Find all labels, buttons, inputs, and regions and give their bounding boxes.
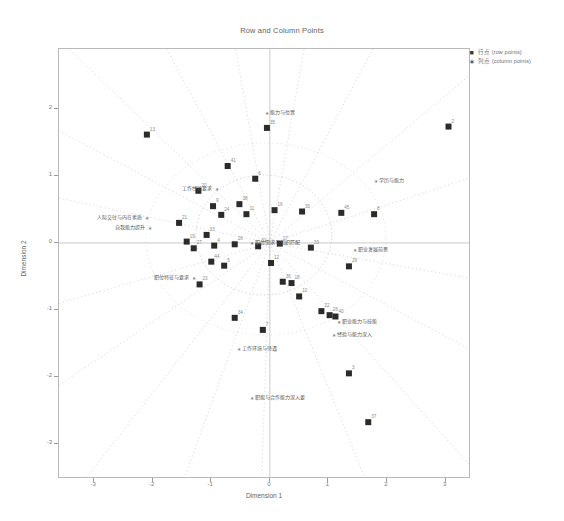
row-point-label: 33	[210, 227, 215, 232]
row-point-label: 44	[214, 254, 219, 259]
x-tick-label: -2	[142, 481, 162, 487]
y-tick-label: -3	[36, 439, 52, 445]
row-point-label: 40	[338, 309, 343, 314]
row-point-label: 27	[197, 240, 202, 245]
row-point-label: 23	[203, 276, 208, 281]
svg-text:∗: ∗	[250, 395, 254, 401]
row-point-label: 26	[238, 236, 243, 241]
legend-label-column-points: 列点 (column points)	[478, 58, 531, 65]
row-point-label: 11	[249, 206, 254, 211]
row-point-label: 12	[274, 255, 279, 260]
plot-area: ∗∗∗∗∗∗∗∗∗∗∗∗	[58, 48, 470, 478]
y-axis-label: Dimension 2	[20, 219, 27, 299]
svg-text:∗: ∗	[332, 332, 336, 338]
row-point-label: 41	[231, 158, 236, 163]
y-tick-mark	[54, 376, 58, 377]
row-point-label: 4	[217, 238, 220, 243]
column-point-label: 职位特征与要求	[154, 274, 189, 280]
svg-text:∗: ∗	[215, 186, 219, 192]
svg-text:∗: ∗	[353, 247, 357, 253]
row-point-label: 10	[302, 288, 307, 293]
row-point-label: 37	[371, 414, 376, 419]
scatter-svg: ∗∗∗∗∗∗∗∗∗∗∗∗	[59, 49, 469, 477]
column-point-label: 职位需求与组织匹配	[255, 239, 300, 245]
row-point-label: 18	[295, 275, 300, 280]
svg-text:∗: ∗	[237, 346, 241, 352]
square-marker-icon: ■	[468, 49, 475, 56]
x-tick-label: 1	[317, 481, 337, 487]
svg-text:∗: ∗	[337, 319, 341, 325]
svg-text:∗: ∗	[250, 240, 254, 246]
svg-text:∗: ∗	[148, 225, 152, 231]
x-tick-label: 2	[376, 481, 396, 487]
x-tick-label: 0	[259, 481, 279, 487]
column-point-label: 工作经验要求	[182, 185, 212, 191]
chart-title: Row and Column Points	[0, 26, 564, 35]
column-point-label: 经验与能力深入	[337, 331, 372, 337]
row-point-label: 38	[242, 196, 247, 201]
row-point-label: 2	[452, 119, 455, 124]
column-point-label: 职业发展前景	[358, 246, 388, 252]
row-point-label: 39	[314, 240, 319, 245]
y-tick-label: 0	[36, 238, 52, 244]
y-tick-label: -2	[36, 372, 52, 378]
row-point-label: 8	[377, 206, 380, 211]
x-axis-label: Dimension 1	[58, 492, 470, 499]
svg-text:∗: ∗	[374, 178, 378, 184]
row-point-label: 16	[278, 202, 283, 207]
y-tick-label: 1	[36, 171, 52, 177]
row-point-label: 34	[238, 310, 243, 315]
y-tick-mark	[54, 108, 58, 109]
y-tick-mark	[54, 443, 58, 444]
svg-text:∗: ∗	[265, 110, 269, 116]
y-tick-mark	[54, 309, 58, 310]
row-point-label: 36	[286, 274, 291, 279]
row-point-label: 19	[190, 234, 195, 239]
legend-item-row-points[interactable]: ■ 行点 (row points)	[468, 49, 562, 56]
row-point-label: 7	[266, 322, 269, 327]
y-tick-mark	[54, 242, 58, 243]
row-point-label: 35	[270, 120, 275, 125]
legend-label-row-points: 行点 (row points)	[478, 49, 522, 56]
column-point-label: 职能与合作能力深入要	[255, 394, 305, 400]
row-point-label: 29	[352, 258, 357, 263]
chart-page: Row and Column Points ∗∗∗∗∗∗∗∗∗∗∗∗ ■ 行点 …	[0, 0, 564, 521]
x-tick-label: 3	[435, 481, 455, 487]
y-tick-label: 2	[36, 104, 52, 110]
row-point-label: 13	[150, 127, 155, 132]
row-point-label: 5	[227, 258, 230, 263]
row-point-label: 3	[352, 365, 355, 370]
x-tick-label: -1	[200, 481, 220, 487]
row-point-label: 30	[305, 204, 310, 209]
legend: ■ 行点 (row points) ∗ 列点 (column points)	[468, 49, 562, 67]
row-point-label: 22	[324, 303, 329, 308]
column-point-label: 工作环境与待遇	[242, 345, 277, 351]
row-point-label: 28	[333, 307, 338, 312]
column-point-label: 职业能力与技能	[342, 318, 377, 324]
svg-text:∗: ∗	[192, 275, 196, 281]
legend-item-column-points[interactable]: ∗ 列点 (column points)	[468, 58, 562, 65]
row-point-label: 9	[216, 198, 219, 203]
y-tick-label: -1	[36, 305, 52, 311]
x-tick-label: -3	[83, 481, 103, 487]
row-point-label: 6	[258, 171, 261, 176]
column-point-label: 能力与位置	[270, 109, 295, 115]
column-point-label: 人际交往与内在素质	[97, 214, 142, 220]
row-point-label: 45	[344, 205, 349, 210]
column-point-label: 学历与能力	[379, 177, 404, 183]
svg-text:∗: ∗	[145, 215, 149, 221]
row-point-label: 21	[182, 215, 187, 220]
row-point-label: 24	[224, 207, 229, 212]
y-tick-mark	[54, 175, 58, 176]
column-point-label: 自我能力提升	[115, 224, 145, 230]
star-marker-icon: ∗	[468, 58, 475, 65]
